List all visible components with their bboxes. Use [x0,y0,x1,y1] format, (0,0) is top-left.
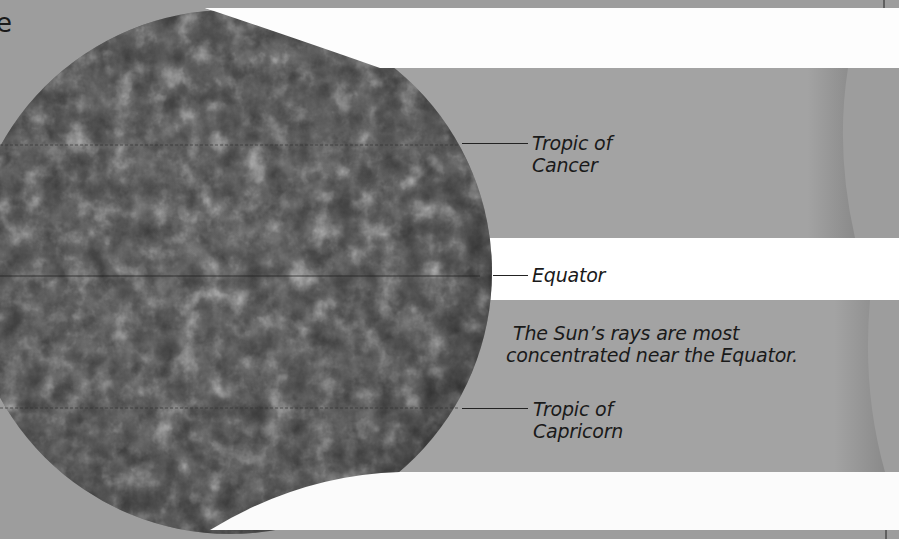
caption-line1: The Sun’s rays are most [506,322,798,344]
tropic-capricorn-line2: Capricorn [533,420,623,442]
tropic-cancer-leader [462,143,528,144]
caption-line2: concentrated near the Equator. [506,344,798,366]
equator-leader [493,275,528,276]
tropic-cancer-line1: Tropic of [532,132,612,154]
tropic-of-capricorn-label: Tropic of Capricorn [533,398,623,442]
tropic-capricorn-leader [462,408,528,409]
sun-rays-diagram: e Tropic of Cancer Equator The Sun’s ray… [0,0,899,539]
diagram-illustration [0,0,899,539]
tropic-of-cancer-label: Tropic of Cancer [532,132,612,176]
tropic-cancer-line2: Cancer [532,154,612,176]
tropic-capricorn-line1: Tropic of [533,398,623,420]
equator-label: Equator [532,264,605,286]
caption: The Sun’s rays are most concentrated nea… [506,322,798,366]
title-fragment: e [0,12,12,34]
